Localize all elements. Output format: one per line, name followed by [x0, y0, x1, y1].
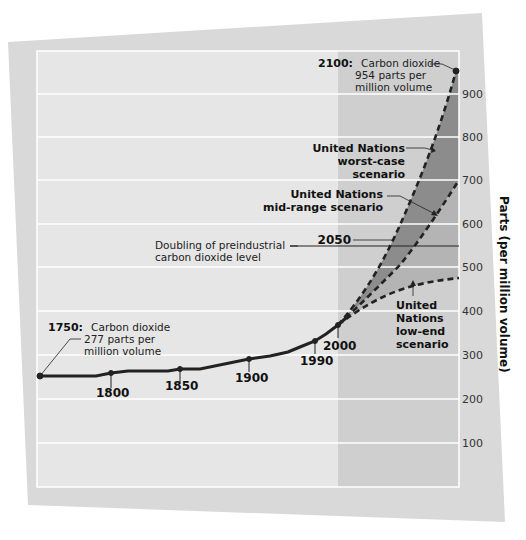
y-tick-800: 800 [462, 131, 483, 144]
chart-canvas: 1800 1850 1900 1990 2000 1750: Carbon di… [0, 0, 526, 540]
y-tick-600: 600 [462, 218, 483, 231]
y-axis-title: Parts (per million volume) [497, 196, 511, 373]
worst-case-label-line1: United Nations [312, 142, 405, 155]
year-label-1850: 1850 [165, 379, 198, 393]
year-label-1900: 1900 [235, 371, 268, 385]
mid-range-label-line1: United Nations [290, 188, 383, 201]
start-note-line2: 277 parts per [84, 333, 156, 345]
co2-chart: 1800 1850 1900 1990 2000 1750: Carbon di… [0, 0, 526, 540]
y-tick-900: 900 [462, 88, 483, 101]
year-label-1800: 1800 [96, 386, 129, 400]
year-label-1990: 1990 [300, 354, 333, 368]
start-note-line3: million volume [84, 345, 161, 357]
low-end-label-line2: Nations [396, 312, 444, 325]
y-tick-400: 400 [462, 305, 483, 318]
year-label-2050: 2050 [318, 233, 351, 247]
y-axis-ticks: 900 800 700 600 500 400 300 200 100 [462, 88, 483, 450]
low-end-label-line4: scenario [396, 338, 449, 351]
start-note-line1: Carbon dioxide [91, 321, 170, 333]
end-note-year: 2100: [318, 57, 353, 70]
y-tick-200: 200 [462, 393, 483, 406]
end-note-line3: million volume [355, 81, 432, 93]
low-end-label-line1: United [396, 299, 437, 312]
y-tick-100: 100 [462, 437, 483, 450]
doubling-label-line1: Doubling of preindustrial [155, 239, 285, 251]
low-end-label-line3: low-end [396, 325, 445, 338]
y-tick-500: 500 [462, 261, 483, 274]
mid-range-label-line2: mid-range scenario [263, 201, 383, 214]
y-tick-300: 300 [462, 349, 483, 362]
end-note-line1: Carbon dioxide [361, 57, 440, 69]
end-note-line2: 954 parts per [355, 69, 427, 81]
y-tick-700: 700 [462, 174, 483, 187]
start-note-year: 1750: [48, 321, 83, 334]
worst-case-label-line3: scenario [352, 168, 405, 181]
doubling-label-line2: carbon dioxide level [155, 251, 261, 263]
year-label-2000: 2000 [323, 339, 356, 353]
worst-case-label-line2: worst-case [338, 155, 405, 168]
